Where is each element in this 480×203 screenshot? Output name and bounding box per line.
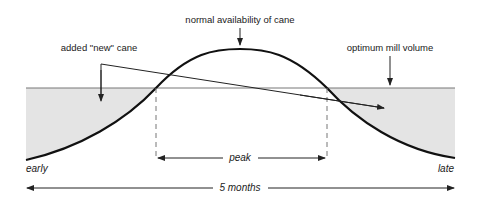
early-label: early: [26, 163, 49, 174]
peak-label: peak: [228, 152, 252, 163]
optimum-mill-volume-label: optimum mill volume: [347, 42, 434, 53]
late-label: late: [438, 163, 455, 174]
shortfall-shade: [26, 88, 455, 160]
cane-availability-diagram: peak 5 months early late normal availabi…: [0, 0, 480, 203]
normal-availability-label: normal availability of cane: [185, 14, 294, 25]
added-new-cane-label: added "new" cane: [61, 42, 137, 53]
duration-label: 5 months: [219, 182, 260, 193]
